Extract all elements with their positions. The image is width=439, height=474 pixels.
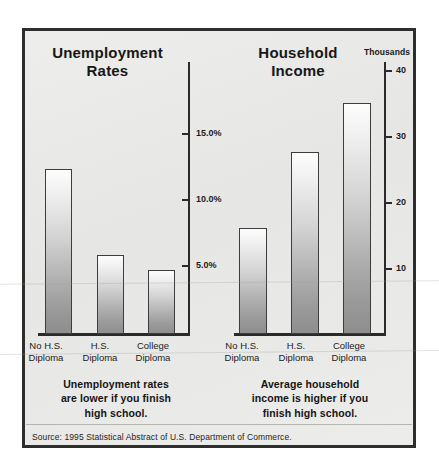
- right-chart-tick-40: [386, 70, 392, 72]
- left-chart-caption: Unemployment rates are lower if you fini…: [30, 377, 202, 420]
- left-chart-tick-15: [182, 133, 188, 135]
- right-chart-bar-college-diploma: [343, 103, 371, 334]
- right-chart-tick-label-10: 10: [396, 263, 406, 273]
- right-chart-tick-30: [386, 136, 392, 138]
- left-chart-tick-label-5: 5.0%: [196, 260, 217, 270]
- right-chart-tick-label-30: 30: [396, 131, 406, 141]
- right-chart-bar-hs-diploma: [291, 152, 319, 334]
- right-chart-tick-10: [386, 268, 392, 270]
- left-chart-tick-label-10: 10.0%: [196, 194, 222, 204]
- right-chart-tick-label-40: 40: [396, 65, 406, 75]
- source-divider: [26, 424, 412, 425]
- right-chart-tick-label-20: 20: [396, 197, 406, 207]
- left-chart-tick-label-15: 15.0%: [196, 128, 222, 138]
- right-chart-y-axis: [384, 62, 386, 336]
- left-chart-category-no-hs-diploma: No H.S. Diploma: [16, 340, 76, 364]
- right-chart-caption: Average household income is higher if yo…: [218, 377, 402, 420]
- source-note: Source: 1995 Statistical Abstract of U.S…: [32, 432, 402, 442]
- units-label-thousands: Thousands: [356, 47, 418, 57]
- left-chart-bar-hs-diploma: [97, 255, 124, 334]
- left-chart-category-hs-diploma: H.S. Diploma: [73, 340, 127, 364]
- left-chart-bar-college-diploma: [148, 270, 175, 334]
- figure-canvas: Unemployment Rates Household Income Thou…: [0, 0, 439, 474]
- right-chart-tick-20: [386, 202, 392, 204]
- left-chart-tick-5: [182, 265, 188, 267]
- left-chart-tick-10: [182, 199, 188, 201]
- left-chart-y-axis: [188, 62, 190, 336]
- left-chart-bar-no-hs-diploma: [45, 169, 72, 334]
- right-chart-plot-area: 40 30 20 10: [234, 62, 386, 336]
- left-chart-plot-area: 15.0% 10.0% 5.0%: [38, 62, 190, 336]
